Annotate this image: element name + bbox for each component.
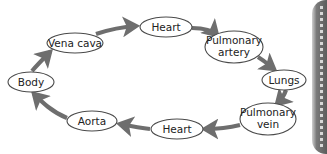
node-label-line-1: Pulmonary (206, 34, 262, 46)
arrow-vena-cava-to-heart (96, 26, 136, 34)
arrow-pulmonary-artery-to-lungs (258, 57, 274, 69)
arrow-lungs-to-pulmonary-vein (277, 90, 286, 104)
node-heart-top: Heart (140, 17, 192, 37)
edge-dashes-decoration (320, 6, 323, 148)
node-heart-bottom: Heart (151, 119, 203, 139)
arrow-aorta-to-body (34, 94, 67, 118)
node-label: Body (18, 76, 45, 88)
node-vena-cava: Vena cava (47, 33, 103, 53)
arrow-heart-to-aorta (120, 124, 150, 129)
node-pulmonary-artery: Pulmonary artery (205, 31, 263, 63)
node-label-line-1: Pulmonary (240, 106, 296, 118)
node-lungs: Lungs (262, 70, 306, 90)
node-aorta: Aorta (67, 111, 117, 131)
circulation-cycle-diagram: Heart Pulmonary artery Lungs Pulmonary v… (0, 0, 327, 154)
node-pulmonary-vein: Pulmonary vein (240, 103, 296, 135)
arrow-pulmonary-vein-to-heart (205, 125, 240, 129)
node-label-line-2: artery (218, 46, 250, 58)
node-label-line-2: vein (257, 118, 279, 130)
node-label: Vena cava (48, 37, 102, 49)
arrow-body-to-vena-cava (32, 52, 50, 71)
node-label: Heart (151, 21, 180, 33)
page-edge-strip (312, 0, 327, 154)
node-label: Lungs (268, 74, 299, 86)
node-label: Aorta (78, 115, 106, 127)
node-body: Body (8, 72, 54, 92)
node-label: Heart (162, 123, 191, 135)
